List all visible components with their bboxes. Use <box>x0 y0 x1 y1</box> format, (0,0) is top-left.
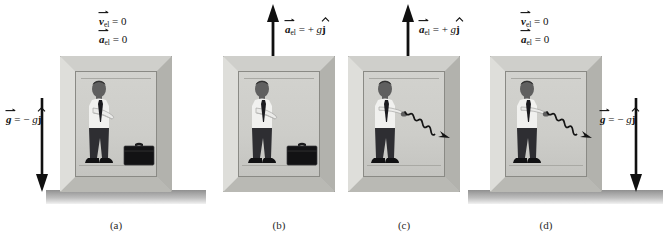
label-acceleration-value-d: = 0 <box>535 33 549 45</box>
vector-arrow-overbar-icon <box>520 9 531 14</box>
vector-a-symbol-a: a <box>99 32 105 46</box>
person-figure-a <box>84 80 128 180</box>
elevator-face-top-c <box>348 56 460 71</box>
label-acceleration-row-b: ael = + gj <box>285 22 326 40</box>
hat-caret-icon <box>321 17 330 22</box>
label-acceleration-value-a: = 0 <box>113 33 127 45</box>
vector-arrow-overbar-icon <box>284 17 295 22</box>
caption-panel-c: (c) <box>384 219 424 231</box>
label-gravity-relation-d: = − <box>608 113 623 125</box>
label-acceleration-d: ael = 0 <box>521 32 549 50</box>
vector-a-symbol-b: a <box>285 22 291 36</box>
person-figure-b <box>247 80 291 180</box>
acceleration-arrow-c <box>399 4 417 56</box>
elevator-ceiling-line-d <box>511 78 581 79</box>
elevator-panel-d <box>490 56 602 192</box>
subscript-el-d1: el <box>526 20 531 29</box>
unit-vector-j-b: j <box>322 22 326 36</box>
label-gravity-row-d: g = − gj <box>600 112 635 126</box>
unit-vector-j-d: j <box>632 112 636 126</box>
elevator-face-right-b <box>320 56 335 192</box>
label-gravity-d: g = − gj <box>600 112 635 126</box>
elevator-face-left-a <box>60 56 75 192</box>
elevator-panel-b <box>223 56 335 192</box>
hat-caret-icon <box>37 107 46 112</box>
label-gravity-row-a: g = − gj <box>6 112 41 126</box>
label-velocity-accel-d: vel = 0 ael = 0 <box>521 14 549 50</box>
vector-g-symbol-a: g <box>6 112 12 126</box>
hat-caret-icon <box>455 17 464 22</box>
caption-panel-b: (b) <box>259 219 299 231</box>
unit-vector-j-a: j <box>38 112 42 126</box>
subscript-el-d2: el <box>527 38 532 47</box>
unit-vector-j-c: j <box>456 22 460 36</box>
subscript-el-a2: el <box>105 38 110 47</box>
acceleration-arrow-b <box>264 4 282 56</box>
briefcase-on-floor-b <box>286 140 318 170</box>
vector-a-symbol-d: a <box>521 32 527 46</box>
elevator-face-top-b <box>223 56 335 71</box>
subscript-el-a1: el <box>104 20 109 29</box>
label-acceleration-c: ael = + gj <box>419 22 460 40</box>
label-velocity-d: vel = 0 <box>521 14 549 32</box>
vector-v-symbol-d: v <box>521 14 526 28</box>
elevator-panel-a <box>60 56 172 192</box>
elevator-face-left-c <box>348 56 363 192</box>
vector-a-symbol-c: a <box>419 22 425 36</box>
label-gravity-a: g = − gj <box>6 112 41 126</box>
thrown-briefcase-trajectory-d <box>547 110 595 144</box>
label-velocity-value-d: = 0 <box>534 15 548 27</box>
vector-arrow-overbar-icon <box>5 107 16 112</box>
elevator-face-left-b <box>223 56 238 192</box>
elevator-ceiling-line-c <box>369 78 439 79</box>
caption-panel-a: (a) <box>96 219 136 231</box>
label-acceleration-relation-b: = + <box>299 23 314 35</box>
label-acceleration-b: ael = + gj <box>285 22 326 40</box>
elevator-face-top-d <box>490 56 602 71</box>
vector-v-symbol-a: v <box>99 14 104 28</box>
ground-strip-a <box>46 190 206 204</box>
label-velocity-a: vel = 0 <box>99 14 127 32</box>
label-velocity-accel-a: vel = 0 ael = 0 <box>99 14 127 50</box>
subscript-el-c: el <box>425 28 430 37</box>
vector-arrow-overbar-icon <box>418 17 429 22</box>
elevator-face-top-a <box>60 56 172 71</box>
elevator-face-right-a <box>157 56 172 192</box>
elevator-panel-c <box>348 56 460 192</box>
elevator-ceiling-line-a <box>81 78 151 79</box>
label-gravity-relation-a: = − <box>14 113 29 125</box>
label-acceleration-relation-c: = + <box>433 23 448 35</box>
label-acceleration-a: ael = 0 <box>99 32 127 50</box>
caption-panel-d: (d) <box>526 219 566 231</box>
elevator-face-left-d <box>490 56 505 192</box>
subscript-el-b: el <box>291 28 296 37</box>
thrown-briefcase-trajectory-c <box>405 110 453 144</box>
physics-figure: vel = 0 ael = 0 g = − gj (a) <box>0 0 669 242</box>
hat-caret-icon <box>631 107 640 112</box>
vector-g-symbol-d: g <box>600 112 606 126</box>
label-acceleration-row-c: ael = + gj <box>419 22 460 40</box>
briefcase-on-floor-a <box>123 140 155 170</box>
elevator-ceiling-line-b <box>244 78 314 79</box>
vector-arrow-overbar-icon <box>98 9 109 14</box>
label-velocity-value-a: = 0 <box>112 15 126 27</box>
